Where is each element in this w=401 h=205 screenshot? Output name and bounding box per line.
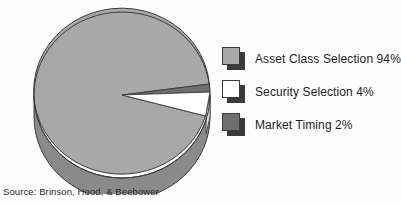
pie-graphic bbox=[20, 4, 230, 194]
chart-legend: Asset Class Selection 94% Security Selec… bbox=[222, 42, 387, 141]
legend-item-asset-class-selection[interactable]: Asset Class Selection 94% bbox=[222, 42, 387, 75]
legend-label-asset-class-selection: Asset Class Selection 94% bbox=[255, 52, 401, 66]
legend-swatch-fill bbox=[222, 80, 240, 98]
legend-swatch-fill bbox=[222, 113, 240, 131]
legend-label-security-selection: Security Selection 4% bbox=[255, 85, 374, 99]
legend-item-market-timing[interactable]: Market Timing 2% bbox=[222, 108, 387, 141]
legend-item-security-selection[interactable]: Security Selection 4% bbox=[222, 75, 387, 108]
legend-label-market-timing: Market Timing 2% bbox=[255, 118, 353, 132]
legend-swatch-security-selection bbox=[222, 80, 247, 104]
legend-swatch-fill bbox=[222, 47, 240, 65]
legend-swatch-market-timing bbox=[222, 113, 247, 137]
legend-swatch-asset-class-selection bbox=[222, 47, 247, 71]
source-note: Source: Brinson, Hood, & Beebower bbox=[3, 186, 159, 197]
pie-svg bbox=[20, 4, 230, 194]
